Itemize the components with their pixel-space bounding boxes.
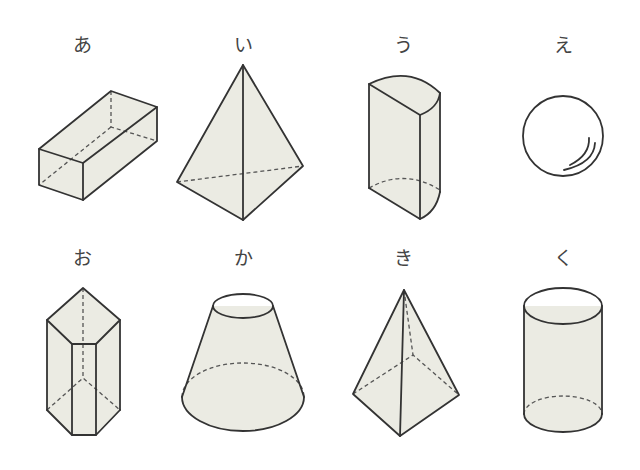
cylinder-shape (524, 288, 602, 432)
half-cylinder-shape (369, 76, 440, 219)
solid-shapes-figure: あ い う え お か き く (0, 0, 640, 470)
rectangular-prism-shape (39, 91, 157, 200)
truncated-cone-shape (182, 294, 304, 431)
square-pyramid-shape (353, 290, 459, 436)
triangular-pyramid-shape (177, 65, 303, 220)
sphere-shape (523, 96, 603, 176)
pentagonal-prism-shape (47, 288, 120, 435)
shapes-canvas (0, 0, 640, 470)
